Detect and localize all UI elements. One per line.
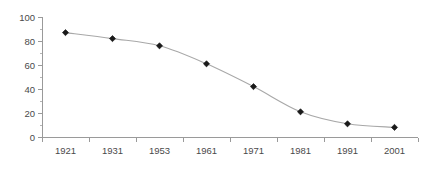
series-group xyxy=(62,30,397,131)
data-point-1961 xyxy=(203,61,209,67)
y-tick-label-0: 0 xyxy=(30,132,35,143)
data-point-1921 xyxy=(62,30,68,36)
data-point-1981 xyxy=(297,109,303,115)
series-markers-1 xyxy=(62,30,397,131)
y-axis-tick-labels: 020406080100 xyxy=(19,12,35,143)
series-line-1 xyxy=(66,33,395,128)
y-tick-label-80: 80 xyxy=(24,36,35,47)
y-axis-minor-ticks xyxy=(40,30,43,126)
axes-group xyxy=(42,17,418,138)
x-tick-label-1961: 1961 xyxy=(196,145,217,156)
x-tick-label-1981: 1981 xyxy=(290,145,311,156)
line-chart: 020406080100 192119311953196119711981199… xyxy=(0,0,437,172)
y-tick-label-40: 40 xyxy=(24,84,35,95)
x-axis-ticks xyxy=(43,138,419,142)
x-tick-label-1921: 1921 xyxy=(55,145,76,156)
y-tick-label-100: 100 xyxy=(19,12,35,23)
x-tick-label-2001: 2001 xyxy=(384,145,405,156)
x-tick-label-1971: 1971 xyxy=(243,145,264,156)
x-axis-tick-labels: 19211931195319611971198119912001 xyxy=(55,145,405,156)
x-tick-label-1931: 1931 xyxy=(102,145,123,156)
x-tick-label-1953: 1953 xyxy=(149,145,170,156)
data-point-1953 xyxy=(156,43,162,49)
data-point-1931 xyxy=(109,36,115,42)
y-tick-label-60: 60 xyxy=(24,60,35,71)
x-tick-label-1991: 1991 xyxy=(337,145,358,156)
data-point-1991 xyxy=(344,121,350,127)
chart-canvas: 020406080100 192119311953196119711981199… xyxy=(0,0,437,172)
data-point-2001 xyxy=(391,124,397,130)
y-tick-label-20: 20 xyxy=(24,108,35,119)
data-point-1971 xyxy=(250,84,256,90)
